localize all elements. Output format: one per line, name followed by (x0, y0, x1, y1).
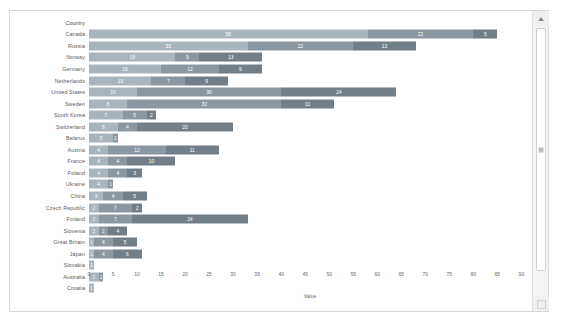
bar-segment[interactable]: 4 (108, 157, 127, 166)
bar-segment[interactable]: 10 (89, 88, 137, 97)
x-axis-tick: 60 (374, 271, 380, 277)
row-label-czech-republic: Czech Republic (10, 205, 89, 211)
bar-segment[interactable]: 18 (89, 53, 175, 62)
row-bars: 443 (89, 167, 531, 179)
bar-segment[interactable]: 4 (103, 191, 122, 200)
chart-row: Austria41211 (10, 144, 531, 156)
bar-segment[interactable]: 5 (473, 30, 497, 39)
bar-segment[interactable]: 30 (137, 88, 281, 97)
row-label-australia: Australia (10, 274, 89, 280)
bar-track: 58225 (89, 30, 497, 39)
row-bars: 41 (89, 179, 531, 191)
bar-segment[interactable]: 10 (127, 157, 175, 166)
x-axis-tick: 20 (182, 271, 188, 277)
chart-row: France4410 (10, 156, 531, 168)
bar-segment[interactable]: 4 (94, 249, 113, 258)
x-axis-tick: 35 (254, 271, 260, 277)
bar-segment[interactable]: 2 (89, 203, 99, 212)
bar-segment[interactable]: 24 (281, 88, 396, 97)
bar-track: 2724 (89, 215, 248, 224)
bar-segment[interactable]: 7 (151, 76, 185, 85)
bar-segment[interactable]: 2 (147, 111, 157, 120)
bar-segment[interactable]: 1 (108, 180, 113, 189)
bar-segment[interactable]: 22 (368, 30, 474, 39)
row-label-united-states: United States (10, 89, 89, 95)
plot-viewport[interactable]: Country Canada58225Russia332213Norway185… (10, 11, 531, 311)
scrollbar-thumb[interactable] (536, 28, 546, 271)
row-label-sweden: Sweden (10, 101, 89, 107)
row-label-great-britain: Great Britain (10, 239, 89, 245)
x-axis-tick: 80 (471, 271, 477, 277)
bar-segment[interactable]: 4 (89, 168, 108, 177)
bar-segment[interactable]: 2 (132, 203, 142, 212)
row-bars: 6420 (89, 121, 531, 133)
bar-segment[interactable]: 11 (281, 99, 334, 108)
bar-track: 18513 (89, 53, 262, 62)
row-bars: 2724 (89, 213, 531, 225)
bar-segment[interactable]: 4 (118, 122, 137, 131)
bar-track: 1379 (89, 76, 228, 85)
chart-row: Czech Republic272 (10, 202, 531, 214)
chart-row: Finland2724 (10, 213, 531, 225)
bar-segment[interactable]: 3 (89, 191, 103, 200)
bar-segment[interactable]: 24 (132, 215, 247, 224)
bar-segment[interactable]: 7 (99, 203, 133, 212)
bar-segment[interactable]: 8 (89, 99, 127, 108)
bar-segment[interactable]: 5 (175, 53, 199, 62)
bar-segment[interactable]: 4 (108, 226, 127, 235)
row-label-france: France (10, 158, 89, 164)
bar-segment[interactable]: 13 (199, 53, 261, 62)
bar-segment[interactable]: 7 (89, 111, 123, 120)
bar-segment[interactable]: 12 (161, 64, 219, 73)
bar-segment[interactable]: 11 (166, 145, 219, 154)
row-bars: 752 (89, 109, 531, 121)
bar-segment[interactable]: 5 (113, 238, 137, 247)
bar-segment[interactable]: 33 (89, 41, 248, 50)
bar-segment[interactable]: 4 (94, 238, 113, 247)
row-label-austria: Austria (10, 147, 89, 153)
vertical-scrollbar[interactable] (532, 11, 548, 311)
chart-row: Germany15129 (10, 63, 531, 75)
bar-track: 15129 (89, 64, 262, 73)
bar-segment[interactable]: 2 (99, 226, 109, 235)
bar-segment[interactable]: 9 (219, 64, 262, 73)
bar-segment[interactable]: 6 (89, 122, 118, 131)
chart-row: Sweden83211 (10, 98, 531, 110)
row-bars: 83211 (89, 98, 531, 110)
bar-segment[interactable]: 5 (123, 191, 147, 200)
bar-segment[interactable]: 7 (99, 215, 133, 224)
bar-segment[interactable]: 2 (89, 215, 99, 224)
bar-segment[interactable]: 32 (127, 99, 281, 108)
bar-segment[interactable]: 1 (113, 134, 118, 143)
bar-segment[interactable]: 5 (89, 134, 113, 143)
bar-segment[interactable]: 13 (353, 41, 415, 50)
chart-row: Netherlands1379 (10, 75, 531, 87)
bar-segment[interactable]: 4 (89, 145, 108, 154)
row-label-japan: Japan (10, 251, 89, 257)
bar-segment[interactable]: 20 (137, 122, 233, 131)
bar-segment[interactable]: 2 (89, 226, 99, 235)
bar-segment[interactable]: 9 (185, 76, 228, 85)
bar-segment[interactable]: 4 (89, 157, 108, 166)
bar-segment[interactable]: 6 (113, 249, 142, 258)
bar-segment[interactable]: 5 (123, 111, 147, 120)
bar-segment[interactable]: 12 (108, 145, 166, 154)
row-bars: 51 (89, 132, 531, 144)
bar-segment[interactable]: 3 (127, 168, 141, 177)
resize-handle[interactable] (537, 300, 546, 309)
x-axis: 051015202530354045505560657075808590 (89, 271, 531, 289)
bar-track: 146 (89, 249, 142, 258)
bar-track: 752 (89, 111, 156, 120)
bar-segment[interactable]: 58 (89, 30, 368, 39)
chart-row: Switzerland6420 (10, 121, 531, 133)
bar-segment[interactable]: 1 (89, 261, 94, 270)
row-bars: 1 (89, 259, 531, 271)
row-bars: 146 (89, 248, 531, 260)
scroll-up-button[interactable] (533, 11, 549, 26)
bar-segment[interactable]: 22 (248, 41, 354, 50)
bar-segment[interactable]: 13 (89, 76, 151, 85)
bar-track: 345 (89, 191, 147, 200)
bar-segment[interactable]: 4 (108, 168, 127, 177)
bar-segment[interactable]: 4 (89, 180, 108, 189)
bar-segment[interactable]: 15 (89, 64, 161, 73)
